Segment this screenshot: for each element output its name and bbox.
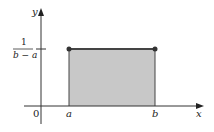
- y-axis-label: y: [31, 6, 38, 17]
- uniform-distribution-diagram: y x 0 a b 1 b − a: [0, 0, 214, 132]
- x-axis-label: x: [196, 108, 202, 119]
- right-endpoint-dot: [153, 47, 158, 52]
- fraction-denominator: b − a: [13, 50, 37, 60]
- fraction-numerator: 1: [21, 37, 27, 47]
- y-tick-fraction-label: 1 b − a: [13, 37, 37, 60]
- left-endpoint-dot: [67, 47, 72, 52]
- y-axis-arrow-icon: [38, 8, 44, 16]
- origin-label: 0: [33, 108, 39, 119]
- shaded-area: [69, 49, 155, 106]
- x-tick-a-label: a: [66, 108, 72, 119]
- x-tick-b-label: b: [152, 108, 158, 119]
